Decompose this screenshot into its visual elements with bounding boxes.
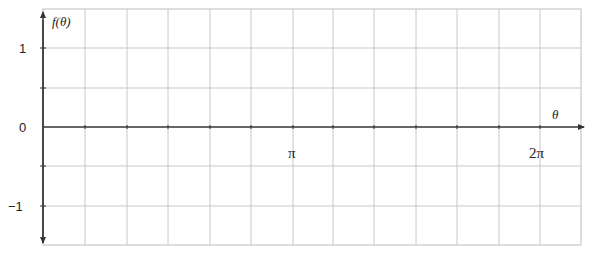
- y-tick-label-0: 0: [19, 120, 26, 135]
- x-tick-label-2pi: 2π: [529, 145, 545, 161]
- x-axis-label: θ: [552, 107, 559, 122]
- y-axis-label: f(θ): [52, 14, 71, 29]
- y-tick-label-minus1: −1: [8, 199, 23, 214]
- x-tick-label-pi: π: [288, 145, 296, 161]
- y-tick-label-1: 1: [19, 41, 26, 56]
- blank-trig-graph: f(θ) θ 1 0 −1 π 2π: [0, 0, 589, 261]
